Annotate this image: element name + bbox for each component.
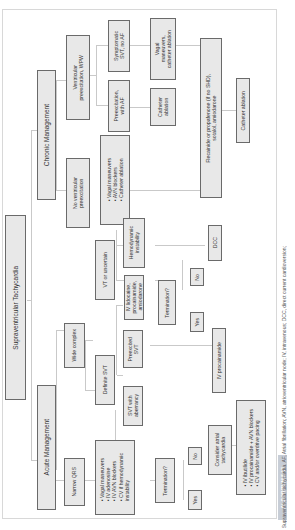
connector: [116, 230, 117, 280]
connector: [222, 110, 236, 111]
vt-uncertain-box: VT or uncertain: [95, 240, 115, 300]
wide-termination-box: Termination?: [158, 280, 176, 325]
atrial-treatment-box: • IV ibutilide • IV procainamide + AVN b…: [236, 400, 266, 495]
connector: [96, 105, 108, 106]
connector: [150, 345, 212, 346]
connector: [31, 130, 32, 460]
connector: [116, 305, 117, 375]
figure-caption: Supraventricular tachycardia. AF, Atrial…: [281, 8, 293, 528]
vagal-catheter-box: Vagal maneuvers, catheter ablation: [150, 18, 176, 80]
narrow-yes-box: Yes: [188, 490, 202, 510]
connector: [56, 330, 57, 470]
connector: [155, 245, 205, 246]
connector: [96, 45, 108, 46]
flecainide-box: Flecainide or propafenone (if no SHD), s…: [200, 38, 222, 198]
connector: [56, 190, 66, 191]
connector: [96, 45, 97, 105]
svt-aberrancy-box: SVT with aberrancy: [123, 386, 143, 426]
connector: [116, 280, 124, 281]
connector: [85, 390, 95, 391]
connector: [130, 45, 150, 46]
hemodynamic-instability-box: Hemodynamic instability: [123, 218, 145, 268]
connector: [176, 45, 200, 46]
consider-atrial-tachycardia-box: Consider atrial tachycardia: [208, 425, 232, 475]
narrow-qrs-box: Narrow QRS: [64, 458, 85, 506]
connector: [117, 305, 123, 306]
wide-complex-box: Wide complex: [64, 323, 85, 368]
connector: [56, 80, 66, 81]
no-ventricular-preexcitation-box: No ventricular preexcitation: [66, 158, 90, 228]
chronic-management-box: Chronic Management: [37, 70, 56, 200]
connector: [130, 107, 150, 108]
definite-svt-box: Definite SVT: [95, 355, 115, 405]
connector: [130, 190, 200, 191]
preexcitation-af-box: Preexcitation, with AF: [108, 80, 130, 132]
catheter-ablation-box-1: Catheter ablation: [150, 88, 176, 126]
wide-yes-box: Yes: [190, 312, 204, 332]
connector: [85, 340, 86, 390]
acute-management-box: Acute Management: [37, 385, 56, 510]
connector: [85, 340, 93, 341]
preexcited-svt-box: Preexcited SVT: [123, 330, 143, 368]
connector: [182, 260, 183, 290]
symptomatic-svt-box: Symptomatic SVT, no AF: [108, 20, 130, 72]
connector: [56, 480, 64, 481]
connector: [183, 460, 184, 500]
connector: [56, 330, 64, 331]
iv-procainamide-box: IV procainamide: [212, 328, 226, 393]
narrow-qrs-treatment-box: • Vagal maneuvers • IV adenosine • IV AV…: [95, 440, 135, 515]
no-preexcitation-treatment-box: • Vagal maneuvers • AVN blockers • Cathe…: [100, 135, 130, 225]
iv-lidocaine-box: IV lidocaine, procainamide, amiodarone: [124, 275, 144, 320]
wide-no-box: No: [190, 268, 204, 286]
root-supraventricular-tachycardia: Supraventricular Tachycardia: [5, 215, 26, 400]
narrow-no-box: No: [188, 447, 202, 465]
catheter-ablation-box-2: Catheter ablation: [236, 78, 250, 143]
connector: [85, 480, 95, 481]
connector: [117, 375, 123, 376]
narrow-termination-box: Termination?: [155, 458, 175, 503]
root-label: Supraventricular Tachycardia: [12, 266, 20, 350]
ventricular-preexcitation-box: Ventricular preexcitation, WPW: [66, 35, 90, 120]
dcc-box: DCC: [208, 225, 222, 261]
connector: [90, 75, 96, 76]
connector: [56, 80, 57, 190]
